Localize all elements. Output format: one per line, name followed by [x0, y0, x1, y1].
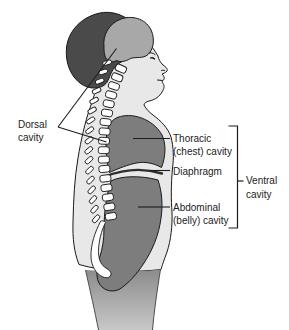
- label-abdominal-cavity-line2: (belly) cavity: [173, 215, 229, 226]
- vertebra: [98, 156, 109, 163]
- label-thoracic-cavity-line1: Thoracic: [173, 133, 211, 144]
- label-ventral-cavity-line2: cavity: [246, 189, 272, 200]
- vertebra: [101, 184, 113, 192]
- label-ventral-cavity-line1: Ventral: [246, 175, 277, 186]
- label-dorsal-cavity-line2: cavity: [18, 132, 44, 143]
- vertebra: [100, 118, 112, 126]
- label-thoracic-cavity-line2: (chest) cavity: [173, 146, 232, 157]
- mouth-line: [158, 80, 163, 81]
- label-dorsal-cavity-line1: Dorsal: [18, 119, 47, 130]
- vertebra: [102, 193, 114, 201]
- vertebra: [99, 128, 110, 136]
- vertebra: [103, 203, 115, 211]
- label-abdominal-cavity-line1: Abdominal: [173, 202, 220, 213]
- ventral-bracket: [229, 126, 238, 228]
- body-cavities-figure: Dorsal cavity Thoracic (chest) cavity Di…: [0, 0, 289, 330]
- vertebra: [100, 174, 112, 182]
- label-diaphragm: Diaphragm: [173, 166, 222, 177]
- anatomy-diagram: Dorsal cavity Thoracic (chest) cavity Di…: [0, 0, 289, 330]
- vertebra: [101, 109, 113, 117]
- vertebra: [98, 147, 109, 154]
- vertebra: [99, 165, 111, 173]
- vertebra: [105, 212, 117, 220]
